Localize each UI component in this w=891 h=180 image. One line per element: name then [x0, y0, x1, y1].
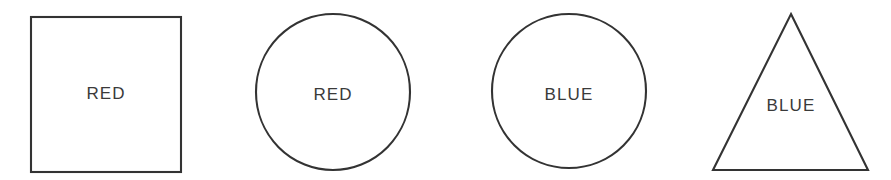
shapes-svg: RED RED BLUE BLUE: [0, 0, 891, 180]
shapes-canvas: RED RED BLUE BLUE: [0, 0, 891, 180]
shape-group-circle-red[interactable]: RED: [256, 14, 410, 170]
triangle-outline[interactable]: [713, 14, 868, 170]
triangle-label: BLUE: [767, 96, 816, 115]
circle-label: RED: [313, 85, 352, 104]
square-label: RED: [86, 84, 125, 103]
circle-label: BLUE: [545, 85, 594, 104]
shape-group-square-red[interactable]: RED: [31, 17, 181, 172]
shape-group-triangle-blue[interactable]: BLUE: [713, 14, 868, 170]
shape-group-circle-blue[interactable]: BLUE: [492, 14, 646, 168]
